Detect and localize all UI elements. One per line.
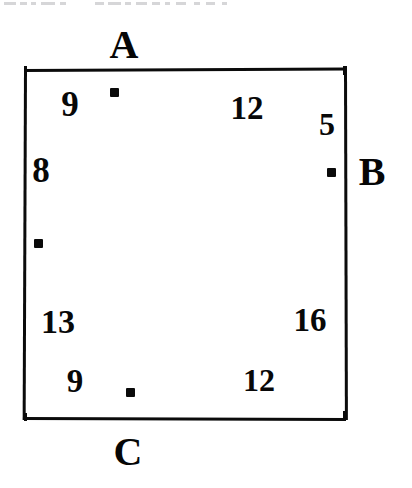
- number-top-right: 5: [319, 108, 335, 140]
- corner-tick-top-right: [343, 66, 347, 75]
- marker-left-dot: [34, 239, 43, 248]
- frame-edge-bottom: [24, 417, 346, 421]
- vertex-label-b: B: [359, 152, 386, 192]
- marker-right-dot: [327, 168, 336, 177]
- frame-edge-top: [24, 68, 346, 72]
- number-top-middle: 12: [231, 92, 264, 125]
- number-right-lower: 16: [294, 304, 327, 337]
- number-top-left: 9: [61, 87, 79, 122]
- marker-top-dot: [110, 88, 119, 97]
- geometric-figure: 9 12 5 8 13 16 9 12 A B C: [0, 0, 412, 488]
- number-bottom-middle: 12: [243, 364, 275, 396]
- corner-tick-bottom-right: [343, 411, 347, 420]
- marker-bottom-dot: [126, 388, 135, 397]
- frame-edge-right: [344, 69, 348, 420]
- number-bottom-left: 9: [67, 365, 84, 398]
- number-left-lower: 13: [41, 305, 75, 339]
- corner-tick-top-left: [24, 66, 27, 74]
- vertex-label-c: C: [114, 432, 143, 472]
- number-left-upper: 8: [32, 153, 50, 188]
- vertex-label-a: A: [110, 25, 139, 65]
- frame-edge-left: [23, 69, 27, 420]
- corner-tick-bottom-left: [24, 413, 27, 421]
